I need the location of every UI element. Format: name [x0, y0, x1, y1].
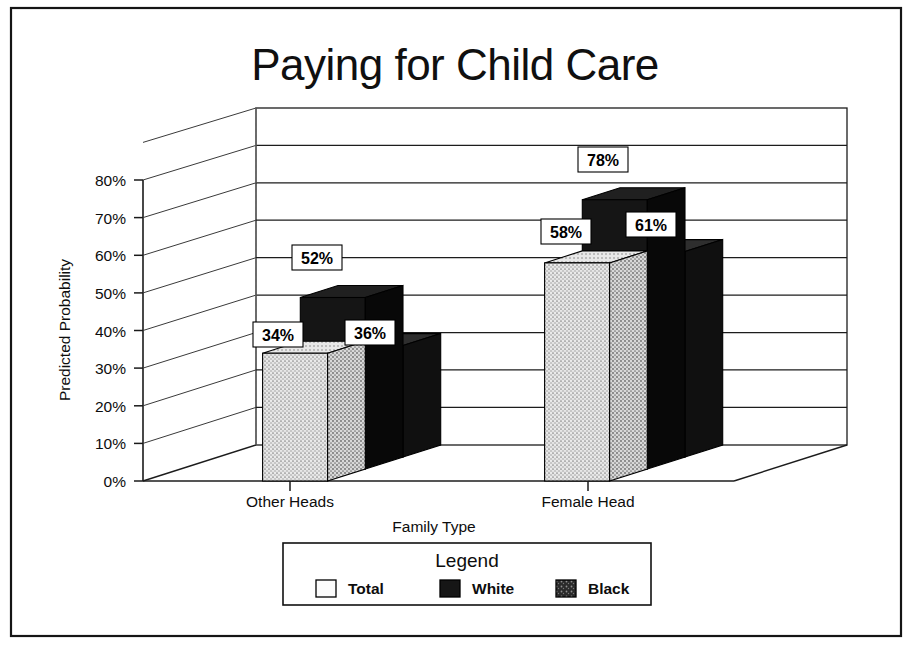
data-label-value: 52%	[301, 250, 333, 267]
y-tick-label: 40%	[95, 323, 126, 340]
y-tick-label: 0%	[104, 473, 127, 490]
bar-total-female-head[interactable]	[545, 251, 648, 481]
data-label-white-other-heads: 52%	[292, 245, 342, 270]
y-tick-label: 70%	[95, 210, 126, 227]
legend-swatch-total	[316, 580, 336, 597]
y-tick-label: 60%	[95, 247, 126, 264]
y-tick-labels: 80% 70% 60% 50% 40% 30% 20% 10% 0%	[95, 172, 126, 490]
legend-label-white: White	[472, 580, 515, 597]
y-tick-label: 50%	[95, 285, 126, 302]
legend-swatch-white	[440, 580, 460, 597]
bar-total-other-heads[interactable]	[263, 341, 366, 481]
data-label-value: 36%	[354, 325, 386, 342]
page-title: Paying for Child Care	[251, 40, 659, 89]
data-label-value: 61%	[635, 217, 667, 234]
data-label-black-other-heads: 36%	[345, 320, 395, 345]
legend-title: Legend	[435, 550, 498, 571]
data-label-value: 34%	[262, 327, 294, 344]
x-axis-title: Family Type	[392, 518, 475, 535]
depth-connectors	[143, 108, 256, 445]
y-tick-label: 30%	[95, 360, 126, 377]
chart-figure: Paying for Child Care	[0, 0, 911, 645]
y-tick-label: 20%	[95, 398, 126, 415]
y-axis	[134, 180, 143, 481]
data-label-white-female-head: 78%	[578, 147, 628, 172]
data-label-value: 78%	[587, 152, 619, 169]
data-label-black-female-head: 61%	[626, 212, 676, 237]
y-axis-title: Predicted Probability	[56, 259, 73, 401]
legend-swatch-black	[556, 580, 576, 597]
legend: Legend Total White Black	[283, 543, 651, 605]
legend-item-black[interactable]: Black	[556, 580, 630, 597]
x-tick-label-other-heads: Other Heads	[246, 493, 334, 510]
y-tick-label: 10%	[95, 435, 126, 452]
legend-item-total[interactable]: Total	[316, 580, 384, 597]
plot-floor	[143, 445, 847, 481]
data-label-total-other-heads: 34%	[253, 322, 303, 347]
legend-item-white[interactable]: White	[440, 580, 515, 597]
x-tick-label-female-head: Female Head	[541, 493, 634, 510]
data-label-total-female-head: 58%	[541, 219, 591, 244]
legend-label-black: Black	[588, 580, 630, 597]
data-label-value: 58%	[550, 224, 582, 241]
x-axis	[290, 481, 588, 491]
y-tick-label: 80%	[95, 172, 126, 189]
legend-label-total: Total	[348, 580, 384, 597]
